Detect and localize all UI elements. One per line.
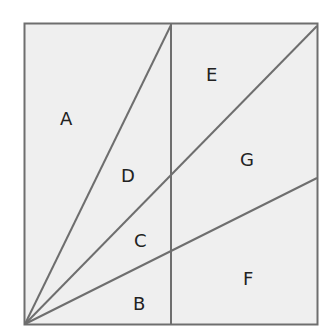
region-label-f: F xyxy=(243,268,253,289)
region-diagram: A B C D E F G xyxy=(0,0,333,330)
region-label-e: E xyxy=(206,64,217,85)
region-label-b: B xyxy=(133,293,145,314)
region-label-a: A xyxy=(60,108,73,129)
region-label-g: G xyxy=(240,149,254,170)
region-label-d: D xyxy=(121,165,135,186)
region-label-c: C xyxy=(134,230,147,251)
